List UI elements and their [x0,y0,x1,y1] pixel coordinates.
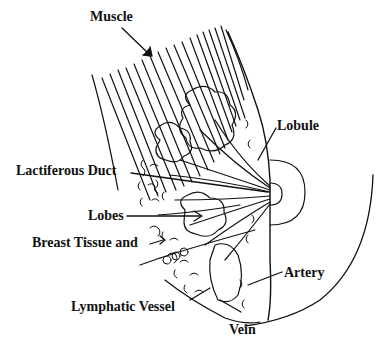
label-breast-tissue: Breast Tissue and [32,236,138,250]
lobules [155,86,242,301]
nipple [270,183,282,205]
breast-anatomy-diagram: Muscle Lobule Lactiferous Duct Lobes Bre… [0,0,385,353]
label-artery: Artery [284,266,324,280]
label-vein: Vein [229,323,256,337]
areola [270,160,305,225]
label-muscle: Muscle [90,10,133,24]
label-lymphatic-vessel: Lymphatic Vessel [71,300,175,314]
body-contour [245,175,373,326]
lower-tissue-boundary [160,230,255,258]
label-lobes: Lobes [88,209,124,223]
breast-outline [228,32,271,320]
label-lobule: Lobule [277,119,319,133]
label-lactiferous-duct: Lactiferous Duct [16,164,116,178]
